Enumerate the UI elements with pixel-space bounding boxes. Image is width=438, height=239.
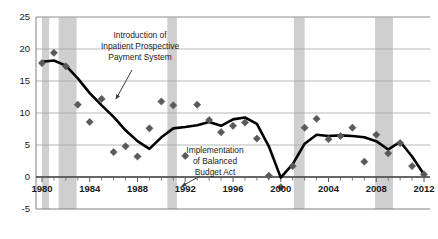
y-tick-label-10: 10: [19, 107, 30, 118]
ipps-annotation-line-1: Introduction of: [113, 30, 167, 40]
x-axis-tick-labels: 198019841988199219962000200420082012: [31, 183, 434, 194]
x-tick-label-2004: 2004: [318, 183, 340, 194]
chart-container: -50510152025 198019841988199219962000200…: [0, 0, 438, 239]
y-tick-label-20: 20: [19, 43, 30, 54]
bba-annotation-line-2: of Balanced: [193, 156, 238, 166]
y-tick-label-25: 25: [19, 11, 30, 22]
x-tick-label-1996: 1996: [222, 183, 243, 194]
ipps-annotation-line-3: Payment System: [108, 52, 171, 62]
chart-canvas: -50510152025 198019841988199219962000200…: [0, 0, 438, 239]
ipps-annotation-line-2: Inpatient Prospective: [101, 41, 180, 51]
bba-annotation-line-3: Budget Act: [195, 167, 236, 177]
x-tick-label-2008: 2008: [366, 183, 387, 194]
x-tick-label-1984: 1984: [79, 183, 101, 194]
bba-annotation-line-1: Implementation: [186, 145, 244, 155]
x-tick-label-2000: 2000: [270, 183, 291, 194]
y-tick-label-15: 15: [19, 75, 30, 86]
y-tick-label-0: 0: [25, 171, 30, 182]
y-tick-label-5: 5: [25, 139, 30, 150]
y-tick-label--5: -5: [22, 203, 30, 214]
x-tick-label-2012: 2012: [413, 183, 434, 194]
x-tick-label-1980: 1980: [31, 183, 52, 194]
x-tick-label-1988: 1988: [127, 183, 148, 194]
